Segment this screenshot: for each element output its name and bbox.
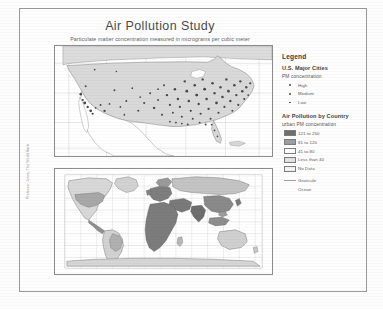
line-icon [282, 180, 298, 181]
world-map-graphic [55, 169, 272, 274]
swatch-icon-81-120 [282, 139, 298, 145]
page-title: Air Pollution Study [20, 19, 300, 33]
legend-label-high: High [298, 83, 307, 88]
legend-label-121-250: 121 to 250 [298, 131, 320, 136]
legend-item-high[interactable]: High [282, 81, 366, 89]
legend-item-ocean[interactable]: Ocean [282, 186, 366, 194]
medium-dot-icon [282, 93, 298, 95]
large-dot-icon [282, 84, 298, 87]
legend-item-41-80[interactable]: 41 to 80 [282, 147, 366, 155]
legend-label-medium: Medium [298, 91, 314, 96]
legend-section-title-country: Air Pollution by Country [282, 113, 366, 119]
legend-label-low: Low [298, 100, 306, 105]
swatch-icon-less-than-40 [282, 157, 298, 163]
legend-label-graticule: Graticule [298, 178, 316, 183]
small-dot-icon [282, 102, 298, 104]
legend-item-low[interactable]: Low [282, 99, 366, 107]
document-page: Air Pollution Study Particulate matter c… [0, 0, 383, 309]
swatch-icon-no-data [282, 166, 298, 172]
legend-item-medium[interactable]: Medium [282, 90, 366, 98]
side-credit-text: Professor Jones, The World Bank [26, 144, 30, 199]
swatch-icon-121-250 [282, 130, 298, 136]
page-subtitle: Particulate matter concentration measure… [20, 36, 300, 42]
legend-label-41-80: 41 to 80 [298, 149, 315, 154]
us-map-panel[interactable] [54, 45, 273, 157]
legend-label-no-data: No Data [298, 166, 315, 171]
world-map-panel[interactable] [54, 168, 273, 275]
legend-label-81-120: 81 to 120 [298, 140, 317, 145]
legend-item-no-data[interactable]: No Data [282, 164, 366, 172]
us-map-graphic [55, 46, 272, 156]
legend-caption-pm-concentration: PM concentration [282, 74, 366, 79]
legend-item-121-250[interactable]: 121 to 250 [282, 129, 366, 137]
legend-section-title-cities: U.S. Major Cities [282, 65, 366, 71]
legend-caption-urban-pm: urban PM concentration [282, 122, 366, 127]
legend-panel: Legend U.S. Major Cities PM concentratio… [282, 53, 366, 194]
map-sheet: Air Pollution Study Particulate matter c… [19, 8, 367, 292]
legend-label-ocean: Ocean [298, 187, 311, 192]
legend-item-81-120[interactable]: 81 to 120 [282, 138, 366, 146]
swatch-icon-41-80 [282, 148, 298, 154]
legend-item-graticule[interactable]: Graticule [282, 177, 366, 185]
legend-label-less-than-40: Less than 40 [298, 157, 324, 162]
legend-item-less-than-40[interactable]: Less than 40 [282, 156, 366, 164]
blank-swatch-icon [282, 187, 298, 193]
legend-heading: Legend [282, 53, 366, 60]
